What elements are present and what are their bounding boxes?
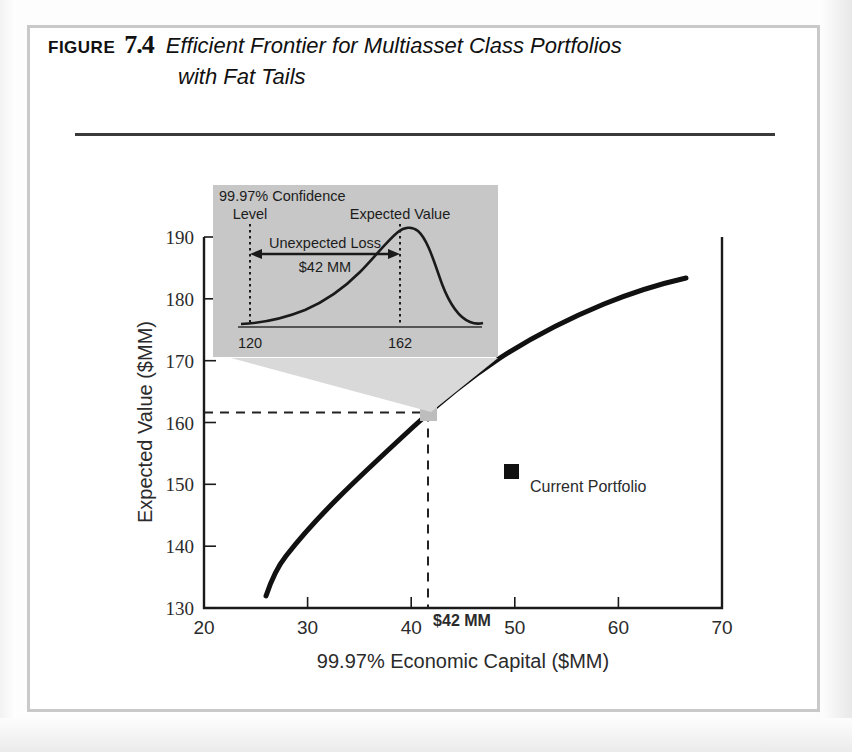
inset-tick-label-left: 120 <box>238 335 262 351</box>
x-axis-title: 99.97% Economic Capital ($MM) <box>317 650 609 672</box>
y-tick-label: 170 <box>166 351 195 372</box>
x-tick-label: 30 <box>297 617 318 638</box>
y-tick-label: 160 <box>166 413 195 434</box>
inset-tick-label-right: 162 <box>388 335 412 351</box>
x-tick-label: 50 <box>504 617 525 638</box>
y-tick-label: 180 <box>166 289 195 310</box>
chart-container: 130 140 150 160 170 180 190 20 30 40 50 … <box>0 0 852 752</box>
capital-annotation-label: $42 MM <box>433 612 491 629</box>
inset-unexpected-loss-label: Unexpected Loss <box>269 235 381 251</box>
x-tick-label: 40 <box>401 617 422 638</box>
y-tick-label: 190 <box>166 227 195 248</box>
inset-callout-cone <box>231 358 498 412</box>
inset-unexpected-loss-value: $42 MM <box>299 259 351 275</box>
y-tick-label: 130 <box>166 598 195 619</box>
inset-expected-value-label: Expected Value <box>350 206 451 222</box>
efficient-frontier-chart: 130 140 150 160 170 180 190 20 30 40 50 … <box>0 0 852 752</box>
y-axis-tick-labels: 130 140 150 160 170 180 190 <box>166 227 195 619</box>
current-portfolio-label: Current Portfolio <box>530 478 647 495</box>
current-portfolio-marker[interactable] <box>504 464 519 479</box>
inset-confidence-label-line-2: Level <box>233 206 268 222</box>
y-axis-title: Expected Value ($MM) <box>134 321 156 523</box>
y-tick-label: 150 <box>166 474 195 495</box>
y-tick-label: 140 <box>166 536 195 557</box>
x-tick-label: 70 <box>711 617 732 638</box>
x-tick-label: 60 <box>608 617 629 638</box>
inset-distribution-panel: 99.97% Confidence Level Expected Value U… <box>213 185 498 357</box>
x-tick-label: 20 <box>193 617 214 638</box>
inset-confidence-label-line-1: 99.97% Confidence <box>219 188 346 204</box>
